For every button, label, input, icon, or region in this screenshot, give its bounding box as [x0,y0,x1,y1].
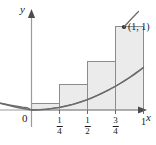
rectangle-3 [88,62,116,111]
riemann-rectangles [32,27,144,111]
x-axis-label: x [146,112,151,123]
fraction-one-quarter: 1 4 [56,116,63,137]
y-axis-label: y [20,4,25,15]
tick-label-one-quarter: 1 4 [56,116,63,137]
tick-label-one: 1 [141,117,146,127]
fraction-one-half: 1 2 [84,116,91,137]
tick-label-one-half: 1 2 [84,116,91,137]
y-axis-arrowhead [28,9,35,18]
point-label-1-1: (1, 1) [128,22,150,32]
rectangle-4 [116,27,144,111]
origin-label: 0 [22,113,28,124]
tick-label-three-quarters: 3 4 [112,116,119,137]
riemann-sum-figure: y x 0 (1, 1) 1 4 1 2 3 4 1 [0,0,156,145]
fraction-three-quarters: 3 4 [112,116,119,137]
